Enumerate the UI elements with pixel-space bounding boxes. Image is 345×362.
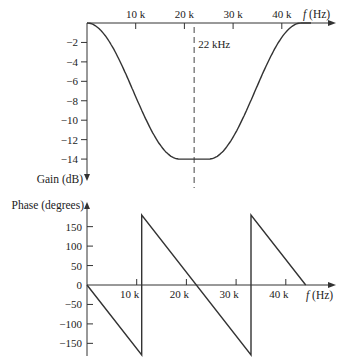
gain-y-tick-label: −4 xyxy=(66,56,78,68)
gain-y-tick-label: −2 xyxy=(66,36,78,48)
phase-y-tick-label: 150 xyxy=(66,221,83,233)
gain-y-tick-label: −12 xyxy=(61,134,78,146)
gain-x-arrow-icon xyxy=(328,20,336,26)
gain-y-axis-label: Gain (dB) xyxy=(37,173,83,186)
phase-y-tick-label: −50 xyxy=(65,298,83,310)
phase-plot: 10 k20 k30 k40 k150100500−50−100−150 f (… xyxy=(12,199,336,356)
gain-plot: 10 k20 k30 k40 k−2−4−6−8−10−12−14 22 kHz… xyxy=(37,8,336,188)
phase-y-axis-label: Phase (degrees) xyxy=(12,199,85,212)
phase-x-tick-label: 10 k xyxy=(120,288,140,300)
phase-y-tick-label: 50 xyxy=(71,260,83,272)
phase-y-tick-label: −150 xyxy=(59,337,82,349)
phase-y-tick-label: 0 xyxy=(77,279,83,291)
phase-y-arrow-icon xyxy=(84,202,90,209)
gain-x-tick-label: 20 k xyxy=(175,8,195,20)
figure: 10 k20 k30 k40 k−2−4−6−8−10−12−14 22 kHz… xyxy=(0,0,345,362)
gain-x-tick-label: 30 k xyxy=(223,8,243,20)
gain-y-tick-label: −10 xyxy=(61,114,79,126)
phase-x-axis-label: f (Hz) xyxy=(306,289,333,302)
gain-y-tick-label: −14 xyxy=(61,153,79,165)
phase-x-tick-label: 20 k xyxy=(170,288,190,300)
phase-x-arrow-icon xyxy=(328,282,336,288)
phase-x-tick-label: 40 k xyxy=(269,288,289,300)
gain-y-tick-label: −6 xyxy=(66,75,78,87)
phase-axes xyxy=(84,202,336,356)
22khz-annotation: 22 kHz xyxy=(198,38,230,50)
gain-x-tick-label: 10 k xyxy=(126,8,146,20)
phase-x-tick-label: 30 k xyxy=(219,288,239,300)
phase-y-tick-label: −100 xyxy=(59,318,82,330)
gain-y-tick-label: −8 xyxy=(66,95,78,107)
gain-x-axis-label: f (Hz) xyxy=(303,8,330,21)
chart-canvas: 10 k20 k30 k40 k−2−4−6−8−10−12−14 22 kHz… xyxy=(0,0,345,362)
phase-y-tick-label: 100 xyxy=(66,240,83,252)
gain-y-arrow-icon xyxy=(84,174,90,181)
gain-x-tick-label: 40 k xyxy=(272,8,292,20)
